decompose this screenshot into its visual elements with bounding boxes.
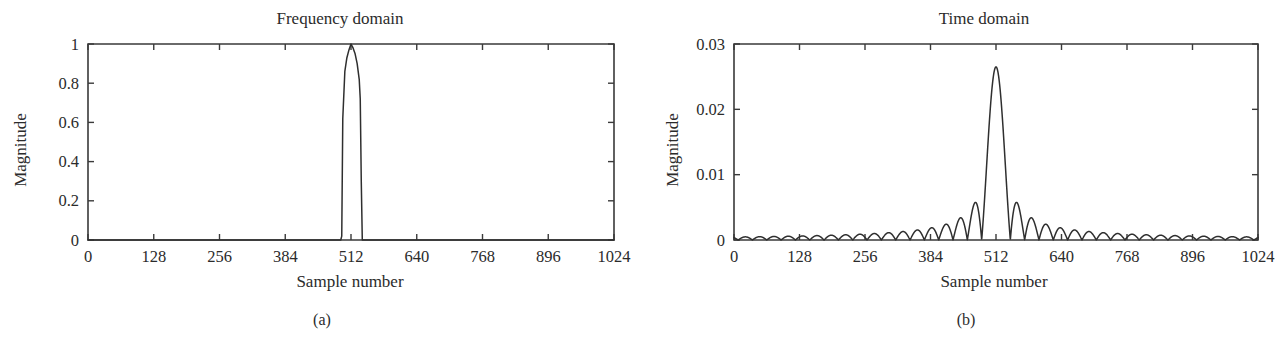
- x-tick-label: 896: [1180, 247, 1205, 266]
- x-tick-label: 768: [1115, 247, 1140, 266]
- x-tick-label: 128: [787, 247, 812, 266]
- figure-container: Frequency domain 00.20.40.60.81 01282563…: [0, 0, 1288, 354]
- time-domain-chart: Time domain 00.010.020.03 01282563845126…: [644, 0, 1288, 354]
- x-tick-label: 256: [207, 247, 232, 266]
- y-axis-label-a: Magnitude: [11, 113, 30, 187]
- y-tick-label: 0.02: [696, 100, 725, 119]
- x-tick-label: 0: [730, 247, 738, 266]
- x-tick-label: 896: [536, 247, 561, 266]
- y-tick-label: 0: [717, 231, 725, 250]
- y-tick-label: 1: [71, 35, 79, 54]
- x-tick-label: 512: [339, 247, 364, 266]
- x-tick-label: 256: [853, 247, 878, 266]
- y-tick-label: 0.4: [58, 152, 79, 171]
- y-tick-label: 0.2: [58, 191, 79, 210]
- x-tick-label: 0: [84, 247, 92, 266]
- x-tick-label: 640: [1049, 247, 1074, 266]
- data-curve-b: [734, 67, 1258, 240]
- y-tick-label: 0.01: [696, 165, 725, 184]
- x-tick-label: 1024: [1242, 247, 1275, 266]
- axes-frame-b: [734, 44, 1258, 240]
- x-tick-label: 512: [984, 247, 1009, 266]
- x-tick-label: 1024: [598, 247, 631, 266]
- chart-title-a: Frequency domain: [277, 9, 404, 28]
- axes-frame: [734, 44, 1258, 240]
- x-tick-labels-a: 01282563845126407688961024: [84, 247, 631, 266]
- x-tick-labels-b: 01282563845126407688961024: [730, 247, 1275, 266]
- y-tick-label: 0: [71, 231, 79, 250]
- x-tick-label: 640: [404, 247, 429, 266]
- y-tick-label: 0.8: [58, 74, 79, 93]
- x-axis-label-a: Sample number: [296, 272, 404, 291]
- frequency-domain-chart: Frequency domain 00.20.40.60.81 01282563…: [0, 0, 644, 354]
- axes-frame-a: [88, 44, 614, 240]
- y-axis-label-b: Magnitude: [663, 113, 682, 187]
- axes-frame: [88, 44, 614, 240]
- x-tick-label: 128: [141, 247, 166, 266]
- y-tick-label: 0.03: [696, 35, 725, 54]
- x-tick-label: 384: [918, 247, 943, 266]
- x-axis-label-b: Sample number: [940, 272, 1048, 291]
- chart-title-b: Time domain: [939, 9, 1030, 28]
- data-curve-a: [88, 44, 614, 240]
- panel-b: Time domain 00.010.020.03 01282563845126…: [644, 0, 1288, 354]
- x-tick-label: 384: [273, 247, 298, 266]
- y-tick-labels-b: 00.010.020.03: [696, 35, 725, 250]
- subfigure-caption-b: (b): [957, 311, 976, 329]
- x-tick-label: 768: [470, 247, 495, 266]
- panel-a: Frequency domain 00.20.40.60.81 01282563…: [0, 0, 644, 354]
- subfigure-caption-a: (a): [313, 311, 331, 329]
- y-tick-labels-a: 00.20.40.60.81: [58, 35, 79, 250]
- y-tick-label: 0.6: [58, 113, 79, 132]
